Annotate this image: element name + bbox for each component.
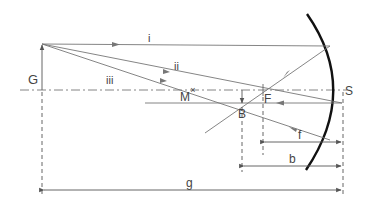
label-g: g (186, 176, 193, 190)
label-F: F (264, 92, 271, 106)
label-S: S (345, 84, 353, 98)
label-iii: iii (106, 74, 113, 86)
concave-mirror (306, 14, 333, 170)
label-M: M (180, 90, 190, 104)
label-ii: ii (174, 60, 179, 72)
label-B: B (238, 107, 246, 121)
mirror-diagram: × G i ii iii M F B S f b g (0, 0, 367, 208)
label-b: b (289, 152, 296, 166)
center-marker: × (190, 85, 195, 95)
label-i: i (148, 32, 150, 44)
ray-ii (42, 44, 342, 106)
ray-i (42, 42, 330, 133)
label-G: G (28, 72, 38, 87)
